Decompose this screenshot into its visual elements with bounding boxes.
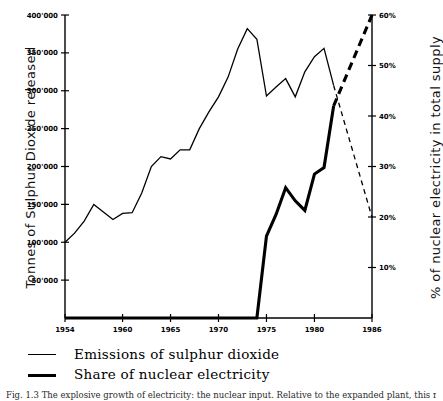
y-axis-right-tick-label: 40%: [379, 113, 396, 121]
x-axis-tick-label: 1975: [257, 326, 277, 334]
axes-group: 50'000100'000150'000200'000250'000300'00…: [27, 12, 396, 334]
data-series-group: [65, 15, 372, 318]
legend-item-emissions: Emissions of sulphur dioxide: [28, 344, 428, 364]
x-axis-tick-label: 1980: [305, 326, 325, 334]
series-line: [334, 15, 372, 106]
y-axis-right-tick-label: 50%: [379, 62, 396, 70]
x-axis-tick-label: 1954: [55, 326, 75, 334]
y-axis-right-tick-label: 60%: [379, 12, 396, 20]
legend-line-thick-icon: [28, 367, 56, 381]
x-axis-tick-label: 1970: [209, 326, 229, 334]
y-axis-right-tick-label: 10%: [379, 264, 396, 272]
legend-line-thin-icon: [28, 347, 56, 361]
legend-label-nuclear: Share of nuclear electricity: [74, 366, 270, 382]
x-axis-tick-label: 1960: [113, 326, 133, 334]
series-line: [334, 85, 372, 217]
y-axis-right-tick-label: 20%: [379, 214, 396, 222]
chart-legend: Emissions of sulphur dioxide Share of nu…: [28, 344, 428, 384]
y-axis-left-tick-label: 400'000: [27, 12, 58, 20]
series-line: [65, 106, 334, 318]
legend-item-nuclear: Share of nuclear electricity: [28, 364, 428, 384]
legend-label-emissions: Emissions of sulphur dioxide: [74, 346, 279, 362]
y-axis-right-title: % of nuclear electricity in total supply: [428, 23, 443, 313]
x-axis-tick-label: 1986: [362, 326, 382, 334]
y-axis-left-title: Tonnes of Sulphur Dioxide released: [23, 28, 38, 308]
x-axis-tick-label: 1965: [161, 326, 181, 334]
series-line: [65, 29, 334, 243]
figure-caption: Fig. 1.3 The explosive growth of electri…: [6, 390, 436, 400]
y-axis-right-tick-label: 30%: [379, 163, 396, 171]
